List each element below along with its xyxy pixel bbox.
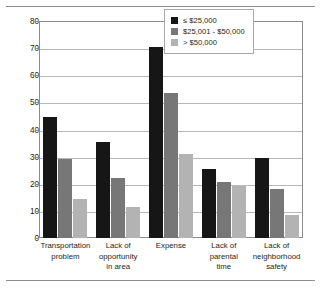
- x-axis-category-label: Expense: [145, 241, 198, 252]
- legend-label: > $50,000: [183, 38, 217, 47]
- x-axis-label-line: problem: [39, 252, 92, 263]
- bar: [58, 159, 72, 238]
- bar-group: [92, 21, 145, 238]
- bar: [232, 186, 246, 238]
- y-tick-label: 30: [9, 152, 39, 161]
- legend-item: > $50,000: [171, 37, 245, 48]
- light-gray-swatch: [171, 39, 178, 46]
- x-axis-label-line: in area: [92, 262, 145, 273]
- bar: [149, 47, 163, 238]
- x-axis-label-line: Expense: [145, 241, 198, 252]
- legend-item: ≤ $25,000: [171, 15, 245, 26]
- legend-item: $25,001 - $50,000: [171, 26, 245, 37]
- bar-group: [39, 21, 92, 238]
- x-axis-label-line: safety: [250, 262, 303, 273]
- y-tick-mark: [35, 238, 39, 239]
- y-tick-label: 0: [9, 234, 39, 243]
- legend: ≤ $25,000$25,001 - $50,000> $50,000: [164, 9, 254, 54]
- bar: [96, 142, 110, 238]
- bar: [202, 169, 216, 238]
- x-axis-category-label: Lack ofneighborhoodsafety: [250, 241, 303, 273]
- x-axis-label-line: Transportation: [39, 241, 92, 252]
- x-axis-category-label: Lack ofopportunityin area: [92, 241, 145, 273]
- x-axis-labels: TransportationproblemLack ofopportunityi…: [39, 241, 303, 289]
- bar: [43, 117, 57, 238]
- y-tick-label: 20: [9, 179, 39, 188]
- y-tick-label: 80: [9, 17, 39, 26]
- x-axis-label-line: Lack of: [197, 241, 250, 252]
- x-axis-label-line: Lack of: [250, 241, 303, 252]
- bar: [285, 215, 299, 238]
- bar: [255, 158, 269, 238]
- y-tick-label: 60: [9, 71, 39, 80]
- bar: [164, 93, 178, 238]
- y-tick-label: 40: [9, 125, 39, 134]
- bar: [73, 199, 87, 238]
- black-swatch: [171, 17, 178, 24]
- y-tick-label: 50: [9, 98, 39, 107]
- bar: [179, 154, 193, 238]
- x-axis-category-label: Lack ofparentaltime: [197, 241, 250, 273]
- top-divider-rule: [6, 6, 315, 7]
- bar: [126, 207, 140, 238]
- bar: [111, 178, 125, 238]
- legend-label: $25,001 - $50,000: [183, 27, 245, 36]
- bar-group: [250, 21, 303, 238]
- x-axis-label-line: Lack of: [92, 241, 145, 252]
- bar: [217, 182, 231, 238]
- y-tick-label: 10: [9, 206, 39, 215]
- x-axis-label-line: neighborhood: [250, 252, 303, 263]
- dark-gray-swatch: [171, 28, 178, 35]
- y-tick-label: 70: [9, 44, 39, 53]
- bar-chart-figure: Percent reporting barriers 0102030405060…: [0, 0, 321, 291]
- x-axis-label-line: parental: [197, 252, 250, 263]
- legend-label: ≤ $25,000: [183, 16, 217, 25]
- x-axis-label-line: opportunity: [92, 252, 145, 263]
- x-axis-label-line: time: [197, 262, 250, 273]
- x-axis-category-label: Transportationproblem: [39, 241, 92, 262]
- bar: [270, 189, 284, 238]
